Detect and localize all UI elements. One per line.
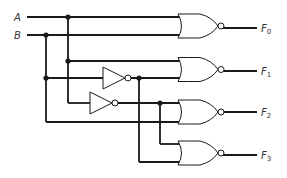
wires <box>27 17 257 162</box>
nor-gate-f2 <box>178 100 224 124</box>
nor-gate-f1 <box>178 58 224 82</box>
output-label-f3: F3 <box>261 150 271 163</box>
output-label-f1: F1 <box>261 66 271 79</box>
output-label-f0: F0 <box>261 23 271 36</box>
logic-circuit-diagram: A B F0 F1 F2 F3 <box>0 0 287 178</box>
inverter-a <box>90 92 118 114</box>
nor-gate-f0 <box>178 14 224 38</box>
input-label-a: A <box>13 12 21 23</box>
input-label-b: B <box>14 30 21 41</box>
junction-dots <box>43 14 162 105</box>
inverter-b <box>103 67 131 89</box>
nor-gate-f3 <box>178 141 224 165</box>
output-label-f2: F2 <box>261 107 271 120</box>
